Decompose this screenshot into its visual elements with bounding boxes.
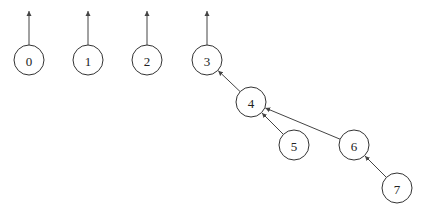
- node-4: 4: [236, 87, 266, 117]
- node-label: 1: [85, 54, 92, 69]
- node-label: 0: [26, 54, 33, 69]
- node-label: 4: [248, 96, 255, 111]
- node-label: 3: [204, 54, 211, 69]
- node-label: 5: [291, 139, 298, 154]
- nodes-layer: 01234567: [14, 45, 412, 203]
- node-5: 5: [279, 130, 309, 160]
- node-3: 3: [192, 45, 222, 75]
- edge-4-to-3: [218, 71, 240, 92]
- edges-layer: [29, 11, 386, 177]
- edge-5-to-4: [262, 113, 283, 134]
- node-0: 0: [14, 45, 44, 75]
- node-label: 6: [351, 139, 358, 154]
- node-2: 2: [132, 45, 162, 75]
- node-1: 1: [73, 45, 103, 75]
- node-label: 7: [394, 182, 401, 197]
- edge-7-to-6: [365, 156, 386, 177]
- node-label: 2: [144, 54, 151, 69]
- node-7: 7: [382, 173, 412, 203]
- diagram-canvas: 01234567: [0, 0, 425, 216]
- node-6: 6: [339, 130, 369, 160]
